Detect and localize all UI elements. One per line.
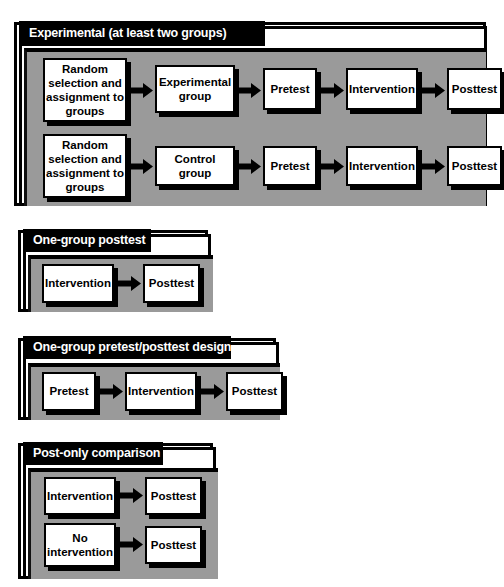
node-intervention-2: Intervention: [346, 146, 418, 186]
node-pretest: Pretest: [42, 372, 96, 411]
node-pretest-2: Pretest: [263, 146, 317, 186]
arrow-2-4: [422, 159, 445, 174]
section-experimental: Experimental (at least two groups) Rando…: [0, 0, 504, 215]
node-posttest: Posttest: [226, 372, 283, 411]
arrow-1-1: [130, 83, 153, 98]
arrow-2-3: [321, 159, 344, 174]
node-intervention: Intervention: [42, 264, 114, 303]
arrow-2-1: [130, 159, 153, 174]
node-no-intervention: No intervention: [44, 523, 116, 567]
section-one-group-pretest-posttest: One-group pretest/posttest design Pretes…: [0, 330, 504, 422]
node-control-group: Control group: [155, 146, 235, 186]
arrow-2-2: [238, 159, 261, 174]
node-random-selection-1: Random selection and assignment to group…: [43, 58, 127, 122]
section-title-post-only-comparison: Post-only comparison: [23, 442, 163, 465]
node-intervention: Intervention: [125, 372, 197, 411]
arrow-1-4: [422, 83, 445, 98]
arrow-5-2: [120, 537, 143, 552]
arrow-1-3: [321, 83, 344, 98]
section-title-one-group-posttest: One-group posttest: [23, 229, 151, 252]
node-intervention-1: Intervention: [346, 68, 418, 110]
arrow-4-1: [100, 384, 123, 399]
section-post-only-comparison: Post-only comparison Intervention Postte…: [0, 437, 504, 587]
node-random-selection-2: Random selection and assignment to group…: [43, 134, 127, 198]
node-posttest-2: Posttest: [145, 526, 202, 564]
node-intervention: Intervention: [44, 477, 116, 515]
node-pretest-1: Pretest: [263, 68, 317, 110]
arrow-1-2: [238, 83, 261, 98]
node-posttest-1: Posttest: [447, 68, 502, 110]
arrow-4-2: [201, 384, 224, 399]
section-one-group-posttest: One-group posttest Intervention Posttest: [0, 224, 504, 316]
section-title-experimental: Experimental (at least two groups): [19, 21, 265, 46]
node-posttest: Posttest: [143, 264, 200, 303]
arrow-3-1: [118, 276, 141, 291]
node-experimental-group: Experimental group: [155, 65, 235, 113]
node-posttest-1: Posttest: [145, 477, 202, 515]
node-posttest-2: Posttest: [447, 146, 502, 186]
arrow-5-1: [120, 488, 143, 503]
section-title-one-group-pretest-posttest: One-group pretest/posttest design: [23, 336, 231, 359]
